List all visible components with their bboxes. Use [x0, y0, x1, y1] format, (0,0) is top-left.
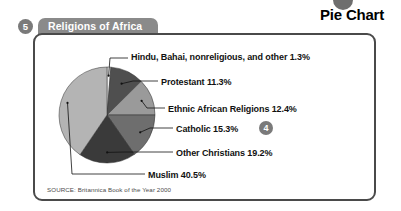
chart-source: SOURCE: Britannica Book of the Year 2000: [47, 186, 171, 193]
panel-number-badge: 5: [18, 19, 33, 34]
pie-label-muslim: Muslim 40.5%: [148, 170, 206, 180]
pie-label-ethnic-african: Ethnic African Religions 12.4%: [168, 104, 297, 114]
pie-label-other-christians: Other Christians 19.2%: [176, 148, 272, 158]
pie-label-hindu: Hindu, Bahai, nonreligious, and other 1.…: [131, 52, 310, 62]
pie-label-catholic: Catholic 15.3%: [176, 124, 238, 134]
section-title: Pie Chart: [320, 6, 384, 23]
inline-number-badge: 4: [259, 121, 273, 135]
pie-label-protestant: Protestant 11.3%: [161, 77, 231, 87]
panel-title: Religions of Africa: [48, 20, 142, 32]
screenshot-root: Pie Chart Religions of Africa 5 Hindu, B…: [0, 0, 401, 211]
